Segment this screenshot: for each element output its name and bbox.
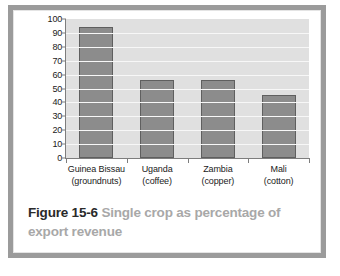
y-axis-tick-mark — [62, 32, 66, 33]
bar — [262, 95, 296, 158]
gridline — [66, 144, 309, 145]
gridline — [66, 47, 309, 48]
x-axis-tick-mark — [309, 159, 310, 163]
y-axis-tick-mark — [62, 130, 66, 131]
y-axis-tick-label: 10 — [34, 140, 62, 149]
y-axis-tick-mark — [62, 74, 66, 75]
y-axis-tick-mark — [62, 60, 66, 61]
y-axis-tick-mark — [62, 144, 66, 145]
x-axis-labels: Guinea Bissau(groundnuts)Uganda(coffee)Z… — [66, 164, 309, 187]
figure-caption: Figure 15-6 Single crop as percentage of… — [28, 203, 313, 241]
y-axis-labels: 1009080706050403020100 — [34, 19, 62, 157]
x-axis-tick-mark — [188, 159, 189, 163]
y-axis-tick-label: 80 — [34, 42, 62, 51]
x-axis-tick-mark — [248, 159, 249, 163]
category-commodity: (groundnuts) — [66, 176, 127, 188]
category-name: Guinea Bissau — [66, 164, 127, 176]
category-commodity: (copper) — [188, 176, 249, 188]
plot-area — [66, 19, 309, 158]
figure-frame: 1009080706050403020100 Guinea Bissau(gro… — [8, 5, 326, 258]
category-name: Mali — [248, 164, 309, 176]
bar — [201, 80, 235, 158]
y-axis-tick-label: 40 — [34, 98, 62, 107]
x-axis-category-label: Zambia(copper) — [188, 164, 249, 187]
y-axis-tick-label: 30 — [34, 112, 62, 121]
y-axis-tick-mark — [62, 19, 66, 20]
y-axis-tick-mark — [62, 46, 66, 47]
caption-number: Figure 15-6 — [28, 205, 98, 220]
gridline — [66, 102, 309, 103]
category-commodity: (coffee) — [127, 176, 188, 188]
x-axis-category-label: Uganda(coffee) — [127, 164, 188, 187]
x-axis-tick-mark — [127, 159, 128, 163]
x-axis-category-label: Mali(cotton) — [248, 164, 309, 187]
category-name: Uganda — [127, 164, 188, 176]
gridline — [66, 33, 309, 34]
y-axis-tick-label: 0 — [34, 154, 62, 163]
y-axis-tick-label: 100 — [34, 15, 62, 24]
category-commodity: (cotton) — [248, 176, 309, 188]
x-axis-category-label: Guinea Bissau(groundnuts) — [66, 164, 127, 187]
y-axis-tick-label: 20 — [34, 126, 62, 135]
y-axis-tick-mark — [62, 116, 66, 117]
bar — [140, 80, 174, 158]
bar-chart: 1009080706050403020100 Guinea Bissau(gro… — [14, 11, 322, 196]
x-axis-tick-mark — [66, 159, 67, 163]
y-axis-tick-label: 90 — [34, 28, 62, 37]
y-axis-tick-mark — [62, 102, 66, 103]
gridline — [66, 130, 309, 131]
y-axis-tick-mark — [62, 88, 66, 89]
y-axis-tick-label: 60 — [34, 70, 62, 79]
figure-panel: 1009080706050403020100 Guinea Bissau(gro… — [13, 10, 321, 253]
category-name: Zambia — [188, 164, 249, 176]
gridline — [66, 75, 309, 76]
y-axis-tick-label: 70 — [34, 56, 62, 65]
gridline — [66, 116, 309, 117]
gridline — [66, 89, 309, 90]
gridline — [66, 61, 309, 62]
y-axis-tick-label: 50 — [34, 84, 62, 93]
